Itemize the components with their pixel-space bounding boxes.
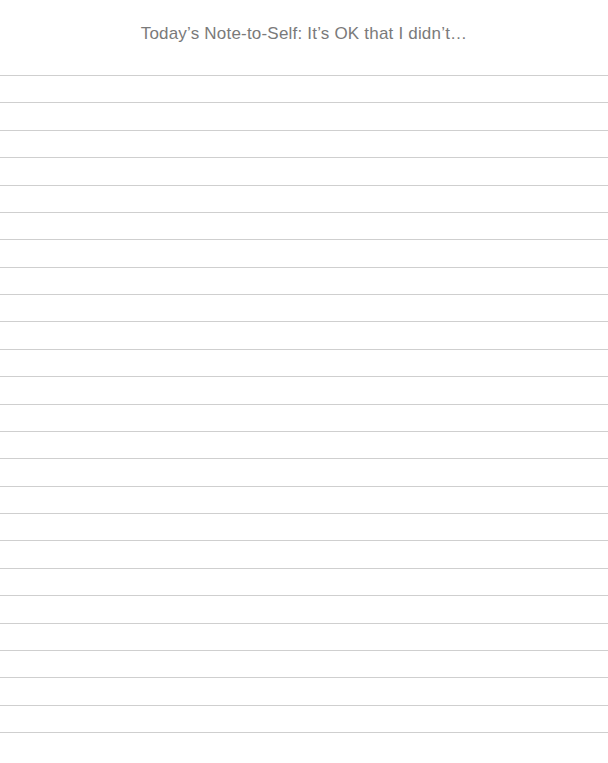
- writing-line: [0, 239, 608, 240]
- writing-line: [0, 677, 608, 678]
- writing-line: [0, 623, 608, 624]
- writing-line: [0, 431, 608, 432]
- writing-line: [0, 349, 608, 350]
- writing-line: [0, 404, 608, 405]
- writing-line: [0, 130, 608, 131]
- writing-line: [0, 732, 608, 733]
- writing-line: [0, 486, 608, 487]
- writing-line: [0, 321, 608, 322]
- ruled-lines: [0, 0, 608, 763]
- writing-line: [0, 705, 608, 706]
- writing-line: [0, 376, 608, 377]
- writing-line: [0, 540, 608, 541]
- writing-line: [0, 294, 608, 295]
- writing-line: [0, 102, 608, 103]
- writing-line: [0, 75, 608, 76]
- writing-line: [0, 267, 608, 268]
- writing-line: [0, 568, 608, 569]
- writing-line: [0, 212, 608, 213]
- writing-line: [0, 157, 608, 158]
- writing-line: [0, 458, 608, 459]
- writing-line: [0, 513, 608, 514]
- writing-line: [0, 595, 608, 596]
- writing-line: [0, 185, 608, 186]
- writing-line: [0, 650, 608, 651]
